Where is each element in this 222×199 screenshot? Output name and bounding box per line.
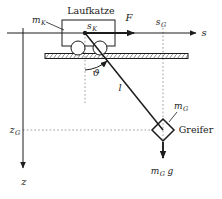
gripper-weight-factor: g xyxy=(167,166,173,176)
trolley-wheel-left xyxy=(71,41,85,55)
gripper-weight-sub: G xyxy=(160,170,165,178)
s-axis-label: s xyxy=(201,28,206,38)
gripper-mass-sub: G xyxy=(183,105,188,113)
rail xyxy=(45,54,188,59)
gripper-weight-base: m xyxy=(151,166,160,176)
zg-label: zG xyxy=(10,126,20,137)
force-label: F xyxy=(126,13,133,23)
trolley-mass-pointer-line xyxy=(46,22,64,30)
trolley-mass-label: mK xyxy=(32,16,46,27)
trolley-position-base: s xyxy=(87,21,92,31)
trolley-label: Laufkatze xyxy=(67,6,114,16)
pendulum-rod xyxy=(85,33,163,130)
angle-label: ϑ xyxy=(92,68,99,78)
mechanics-diagram: Laufkatze mK sK F sG s ϑ l zG z mG Greif… xyxy=(0,0,222,199)
gripper-weight-label: mGg xyxy=(151,167,174,178)
trolley-position-label: sK xyxy=(87,22,97,33)
sg-base: s xyxy=(156,17,161,27)
trolley-wheel-right xyxy=(93,41,107,55)
diagram-canvas xyxy=(0,0,222,199)
trolley-mass-sub: K xyxy=(41,19,46,27)
gripper-mass-base: m xyxy=(174,101,183,111)
gripper-mass-pointer-line xyxy=(169,112,177,122)
gripper-mass-label: mG xyxy=(174,102,188,113)
gripper-label: Greifer xyxy=(179,125,213,135)
trolley-position-sub: K xyxy=(92,25,97,33)
sg-sub: G xyxy=(161,21,166,29)
z-axis-label: z xyxy=(21,177,26,187)
rod-length-label: l xyxy=(118,83,121,93)
sg-label: sG xyxy=(156,18,166,29)
trolley-mass-base: m xyxy=(32,15,41,25)
zg-sub: G xyxy=(15,129,20,137)
